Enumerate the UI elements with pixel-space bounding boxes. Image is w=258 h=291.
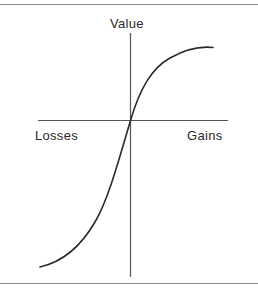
losses-axis-label: Losses <box>35 129 78 142</box>
value-function-plot <box>0 0 258 291</box>
value-curve <box>40 47 213 267</box>
value-axis-label: Value <box>110 17 144 30</box>
gains-axis-label: Gains <box>187 129 222 142</box>
value-function-figure: Value Losses Gains <box>0 0 258 291</box>
